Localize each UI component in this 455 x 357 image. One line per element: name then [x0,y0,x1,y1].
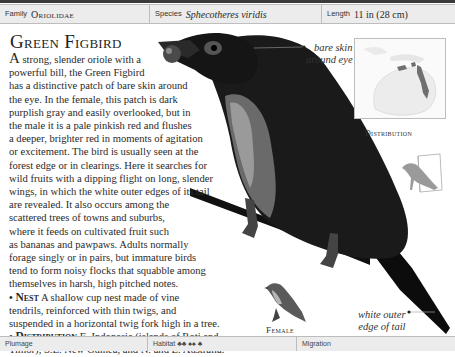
drop-cap: A [9,50,20,66]
description-line: wild fruits with a dipping flight on lon… [9,172,224,185]
description-line: themselves in harsh, high pitched notes. [9,277,224,290]
description-line: the eye. In the female, this patch is da… [9,93,224,106]
distribution-map [354,38,446,119]
habitat-cell: Habitat ♣♣ ♠♠ ♣ [148,337,297,351]
length-cell: Length 11 in (28 cm) [322,5,455,23]
length-label: Length [327,9,350,18]
species-title: Green Figbird [10,31,122,53]
nest-heading: Nest [15,291,38,303]
size-silhouette-icon [400,152,444,198]
habitat-label: Habitat [153,340,175,347]
plumage-label: Plumage [5,340,33,347]
map-caption: Distribution [365,129,412,138]
female-caption: Female [266,325,294,335]
nest-line: suspended in a horizontal twig fork high… [9,317,224,330]
migration-cell: Migration [297,337,455,351]
species-cell: Species Sphecotheres viridis [150,5,322,23]
description-line: where it feeds on cultivated fruit such [9,225,224,238]
description-text: A strong, slender oriole with a powerful… [9,53,224,357]
description-line: forage singly or in pairs, but immature … [9,251,224,264]
habitat-icons: ♣♣ ♠♠ ♣ [177,340,202,347]
nest-line: • Nest A shallow cup nest made of vine [9,291,224,304]
family-cell: Family Oriolidae [0,5,150,23]
annotation-bare-skin: bare skin around eye [306,42,353,66]
description-line: powerful bill, the Green Figbird [9,66,224,79]
family-value: Oriolidae [31,9,74,20]
species-value: Sphecotheres viridis [186,9,267,20]
family-label: Family [5,9,27,18]
female-bird-illustration [262,278,312,325]
description-line: tend to form noisy flocks that squabble … [9,264,224,277]
nest-line: tendrils, reinforced with thin twigs, an… [9,304,224,317]
description-line: wings, in which the white outer edges of… [9,185,224,198]
migration-label: Migration [302,340,331,347]
footer-bar: Plumage Habitat ♣♣ ♠♠ ♣ Migration [0,336,455,351]
species-label: Species [155,9,182,18]
description-line: A strong, slender oriole with a [9,53,224,66]
annotation-white-tail: white outer edge of tail [358,309,406,333]
description-line: are revealed. It also occurs among the [9,198,224,211]
description-line: scattered trees of towns and suburbs, [9,211,224,224]
description-line: purplish gray and easily overlooked, but… [9,106,224,119]
description-line: the male it is a pale pinkish red and fl… [9,119,224,132]
bullet-icon: • [9,292,13,303]
description-line: a deeper, brighter red in moments of agi… [9,132,224,145]
plumage-cell: Plumage [0,337,148,351]
description-line: has a distinctive patch of bare skin aro… [9,79,224,92]
description-line: as bananas and pawpaws. Adults normally [9,238,224,251]
header-bar: Family Oriolidae Species Sphecotheres vi… [0,4,455,24]
length-value: 11 in (28 cm) [354,9,408,20]
description-line: or excitement. The bird is usually seen … [9,145,224,158]
top-rule [0,0,455,3]
description-line: forest edge or in clearings. Here it sea… [9,159,224,172]
